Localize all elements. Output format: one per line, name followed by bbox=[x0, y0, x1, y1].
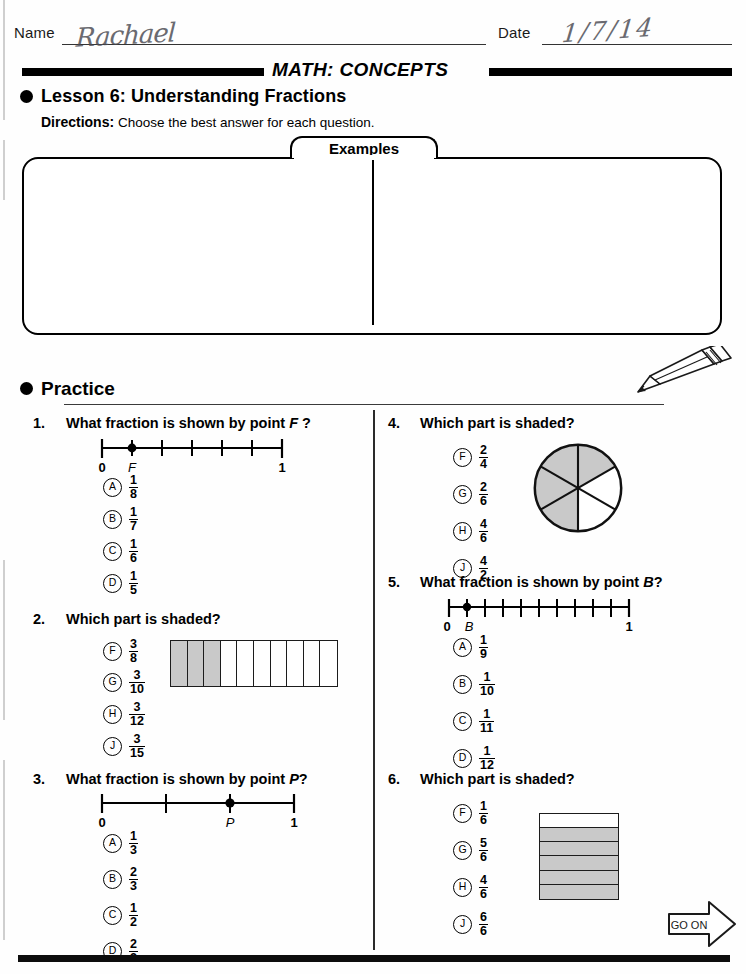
choice-fraction: 1 5 bbox=[129, 570, 138, 597]
choice-bubble[interactable]: G bbox=[103, 673, 122, 692]
question-text-post: ? bbox=[299, 771, 308, 787]
question-5-choice-d[interactable]: D 1 12 bbox=[453, 745, 495, 772]
question-2-choice-h[interactable]: H 3 12 bbox=[103, 701, 145, 728]
choice-fraction: 1 10 bbox=[479, 671, 495, 698]
question-1-choice-d[interactable]: D 1 5 bbox=[103, 570, 138, 597]
bar-cell bbox=[204, 641, 221, 686]
choice-fraction: 2 4 bbox=[479, 444, 488, 471]
question-6-choice-f[interactable]: F 1 6 bbox=[453, 800, 488, 827]
question-5-choice-c[interactable]: C 1 11 bbox=[453, 708, 494, 735]
choice-bubble[interactable]: D bbox=[453, 749, 472, 768]
bar-cell bbox=[237, 641, 254, 686]
choice-bubble[interactable]: J bbox=[453, 915, 472, 934]
bar-cell bbox=[320, 641, 337, 686]
question-3-choice-c[interactable]: C 1 2 bbox=[103, 902, 138, 929]
question-1-choice-a[interactable]: A 1 8 bbox=[103, 474, 138, 501]
question-5-choice-a[interactable]: A 1 9 bbox=[453, 634, 488, 661]
choice-bubble[interactable]: C bbox=[103, 906, 122, 925]
fraction-denominator: 3 bbox=[129, 879, 138, 893]
fraction-numerator: 4 bbox=[479, 518, 488, 531]
practice-rule bbox=[64, 404, 664, 405]
numberline-svg: 0 P 1 bbox=[96, 789, 311, 833]
fraction-numerator: 3 bbox=[129, 669, 145, 682]
choice-bubble[interactable]: F bbox=[103, 642, 122, 661]
choice-bubble[interactable]: H bbox=[103, 705, 122, 724]
numberline-start-label: 0 bbox=[98, 815, 105, 830]
question-6-choice-h[interactable]: H 4 6 bbox=[453, 874, 488, 901]
question-3-choice-b[interactable]: B 2 3 bbox=[103, 866, 138, 893]
question-3-choice-a[interactable]: A 1 3 bbox=[103, 830, 138, 857]
scan-edge-artifact bbox=[3, 760, 5, 940]
bullet-dot-icon bbox=[20, 90, 33, 103]
question-5-prompt: What fraction is shown by point B? bbox=[420, 574, 662, 590]
question-4-circle-figure bbox=[530, 440, 626, 540]
fraction-denominator: 15 bbox=[129, 746, 145, 760]
bar-cell bbox=[254, 641, 271, 686]
question-2-choice-f[interactable]: F 3 8 bbox=[103, 638, 138, 665]
choice-bubble[interactable]: C bbox=[453, 712, 472, 731]
numberline-end-label: 1 bbox=[625, 619, 632, 634]
question-4-choice-h[interactable]: H 4 6 bbox=[453, 518, 488, 545]
fraction-denominator: 9 bbox=[479, 647, 488, 661]
fraction-numerator: 1 bbox=[129, 570, 138, 583]
question-6-choice-g[interactable]: G 5 6 bbox=[453, 837, 488, 864]
practice-title: Practice bbox=[41, 378, 115, 400]
choice-bubble[interactable]: B bbox=[453, 675, 472, 694]
question-2-bar-figure bbox=[170, 640, 338, 687]
fraction-numerator: 5 bbox=[479, 837, 488, 850]
question-2-prompt: Which part is shaded? bbox=[66, 611, 221, 627]
pencil-icon bbox=[630, 346, 736, 404]
scan-edge-artifact bbox=[3, 140, 5, 200]
go-on-arrow: GO ON bbox=[665, 898, 739, 954]
examples-column-divider bbox=[372, 159, 374, 325]
choice-bubble[interactable]: F bbox=[453, 804, 472, 823]
choice-bubble[interactable]: J bbox=[103, 737, 122, 756]
fraction-numerator: 3 bbox=[129, 638, 138, 651]
fraction-numerator: 2 bbox=[479, 444, 488, 457]
bar-cell bbox=[171, 641, 188, 686]
choice-bubble[interactable]: B bbox=[103, 510, 122, 529]
choice-bubble[interactable]: A bbox=[453, 638, 472, 657]
question-2-choice-g[interactable]: G 3 10 bbox=[103, 669, 145, 696]
choice-bubble[interactable]: B bbox=[103, 870, 122, 889]
question-1-choice-c[interactable]: C 1 6 bbox=[103, 538, 138, 565]
row-cell bbox=[540, 871, 618, 885]
fraction-denominator: 8 bbox=[129, 651, 138, 665]
choice-bubble[interactable]: H bbox=[453, 878, 472, 897]
choice-bubble[interactable]: G bbox=[453, 841, 472, 860]
choice-fraction: 1 6 bbox=[129, 538, 138, 565]
choice-bubble[interactable]: D bbox=[103, 574, 122, 593]
choice-bubble[interactable]: H bbox=[453, 522, 472, 541]
question-4-choice-f[interactable]: F 2 4 bbox=[453, 444, 488, 471]
question-2-choice-j[interactable]: J 3 15 bbox=[103, 733, 145, 760]
numberline-svg: 0 B 1 bbox=[443, 594, 653, 638]
fraction-denominator: 8 bbox=[129, 487, 138, 501]
fraction-numerator: 1 bbox=[129, 474, 138, 487]
date-label: Date bbox=[498, 24, 531, 41]
numberline-svg: 0 F 1 bbox=[96, 434, 301, 478]
go-on-label: GO ON bbox=[671, 919, 708, 931]
question-5-choice-b[interactable]: B 1 10 bbox=[453, 671, 495, 698]
choice-fraction: 1 3 bbox=[129, 830, 138, 857]
choice-bubble[interactable]: G bbox=[453, 485, 472, 504]
question-3-number: 3. bbox=[33, 771, 45, 787]
choice-bubble[interactable]: F bbox=[453, 448, 472, 467]
bar-cell bbox=[271, 641, 288, 686]
choice-fraction: 6 6 bbox=[479, 911, 488, 938]
question-text-pre: What fraction is shown by point bbox=[66, 415, 289, 431]
fraction-numerator: 4 bbox=[479, 874, 488, 887]
fraction-denominator: 10 bbox=[129, 682, 145, 696]
question-6-choice-j[interactable]: J 6 6 bbox=[453, 911, 488, 938]
subject-band: MATH: CONCEPTS bbox=[22, 62, 732, 82]
choice-bubble[interactable]: A bbox=[103, 834, 122, 853]
choice-bubble[interactable]: C bbox=[103, 542, 122, 561]
fraction-denominator: 5 bbox=[129, 583, 138, 597]
question-1-choice-b[interactable]: B 1 7 bbox=[103, 506, 138, 533]
subject-title: MATH: CONCEPTS bbox=[272, 59, 448, 81]
choice-bubble[interactable]: A bbox=[103, 478, 122, 497]
choice-fraction: 2 3 bbox=[129, 866, 138, 893]
question-point-label: P bbox=[289, 771, 299, 787]
question-4-choice-g[interactable]: G 2 6 bbox=[453, 481, 488, 508]
fraction-denominator: 6 bbox=[479, 813, 488, 827]
fraction-denominator: 6 bbox=[479, 850, 488, 864]
